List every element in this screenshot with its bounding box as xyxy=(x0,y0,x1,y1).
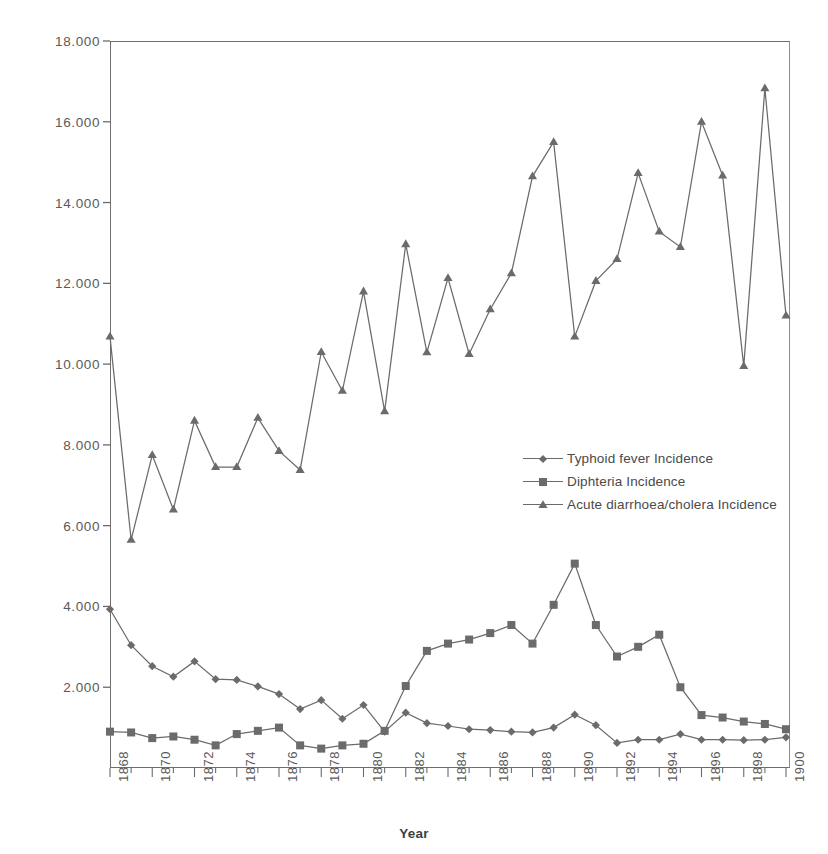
x-tick-label: 1900 xyxy=(792,751,807,782)
x-tick-label: 1874 xyxy=(243,751,258,782)
x-tick-label: 1870 xyxy=(158,751,173,782)
chart-legend: Typhoid fever IncidenceDiphteria Inciden… xyxy=(523,449,777,514)
diamond-marker-icon xyxy=(523,452,563,466)
legend-item[interactable]: Typhoid fever Incidence xyxy=(523,449,777,468)
x-axis-title: Year xyxy=(0,826,828,841)
square-marker-icon xyxy=(523,475,563,489)
triangle-marker-icon xyxy=(523,498,563,512)
x-axis-labels: 1868187018721874187618781880188218841886… xyxy=(0,0,828,854)
x-tick-label: 1876 xyxy=(285,751,300,782)
x-tick-label: 1878 xyxy=(327,751,342,782)
x-tick-label: 1886 xyxy=(496,751,511,782)
legend-item[interactable]: Diphteria Incidence xyxy=(523,472,777,491)
legend-item[interactable]: Acute diarrhoea/cholera Incidence xyxy=(523,495,777,514)
x-tick-label: 1892 xyxy=(623,751,638,782)
x-tick-label: 1888 xyxy=(539,751,554,782)
x-tick-label: 1898 xyxy=(750,751,765,782)
legend-label: Diphteria Incidence xyxy=(567,474,685,489)
x-tick-label: 1890 xyxy=(581,751,596,782)
legend-label: Acute diarrhoea/cholera Incidence xyxy=(567,497,777,512)
x-tick-label: 1894 xyxy=(665,751,680,782)
x-tick-label: 1880 xyxy=(370,751,385,782)
x-tick-label: 1896 xyxy=(708,751,723,782)
x-tick-label: 1884 xyxy=(454,751,469,782)
legend-label: Typhoid fever Incidence xyxy=(567,451,713,466)
x-tick-label: 1882 xyxy=(412,751,427,782)
x-tick-label: 1868 xyxy=(116,751,131,782)
incidence-line-chart: 18.00016.00014.00012.00010.0008.0006.000… xyxy=(0,0,828,854)
x-tick-label: 1872 xyxy=(201,751,216,782)
